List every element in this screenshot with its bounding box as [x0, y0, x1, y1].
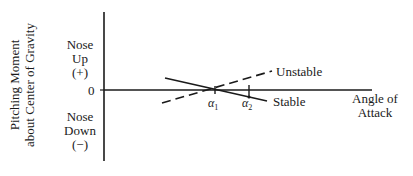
- stable-label: Stable: [273, 95, 306, 109]
- y-axis-title-line1: Pitching Moment: [7, 10, 22, 160]
- nose-up-sign: (+): [60, 66, 100, 80]
- zero-label: 0: [88, 84, 95, 98]
- alpha1-label: α1: [208, 96, 218, 112]
- nose-down-line1: Nose: [60, 110, 100, 124]
- nose-down-label: Nose Down (−): [60, 110, 100, 152]
- y-axis-title-line2: about Center of Gravity: [22, 10, 37, 160]
- unstable-label: Unstable: [276, 65, 322, 79]
- alpha2-label: α2: [242, 96, 252, 112]
- alpha2-subscript: 2: [248, 103, 252, 112]
- alpha1-subscript: 1: [214, 103, 218, 112]
- x-axis-title-line1: Angle of: [345, 92, 405, 106]
- nose-up-line1: Nose: [60, 38, 100, 52]
- nose-down-line2: Down: [60, 124, 100, 138]
- nose-up-line2: Up: [60, 52, 100, 66]
- x-axis-title-line2: Attack: [345, 106, 405, 120]
- x-axis-title: Angle of Attack: [345, 92, 405, 120]
- nose-down-sign: (−): [60, 138, 100, 152]
- y-axis-title: Pitching Moment about Center of Gravity: [7, 10, 37, 160]
- nose-up-label: Nose Up (+): [60, 38, 100, 80]
